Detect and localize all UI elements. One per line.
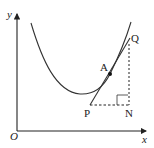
origin-label: O	[10, 130, 18, 142]
right-angle-marker	[117, 95, 128, 105]
y-axis-label: y	[6, 8, 12, 20]
x-axis-label: x	[141, 133, 147, 145]
point-a	[108, 72, 112, 76]
label-n: N	[125, 107, 133, 119]
label-q: Q	[131, 32, 139, 44]
tangent-diagram: y x O A Q P N	[0, 0, 154, 148]
label-p: P	[84, 107, 90, 119]
label-a: A	[100, 61, 108, 73]
curve	[31, 22, 131, 94]
